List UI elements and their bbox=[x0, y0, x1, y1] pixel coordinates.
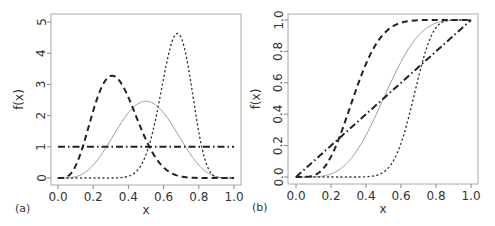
panel-a-pdf: 0.00.20.40.60.81.0012345xf(x)(a) bbox=[12, 14, 244, 217]
series-dotted-line bbox=[58, 34, 234, 179]
y-tick-label: 0.6 bbox=[272, 73, 286, 92]
y-tick-label: 5 bbox=[35, 18, 49, 26]
y-tick-label: 0.8 bbox=[272, 42, 286, 61]
y-axis-title: f(x) bbox=[12, 89, 26, 110]
y-tick-label: 1.0 bbox=[272, 10, 286, 29]
x-tick-label: 0.4 bbox=[356, 189, 375, 203]
y-tick-label: 4 bbox=[35, 49, 49, 57]
series-dashdot-line bbox=[296, 20, 471, 177]
x-tick-label: 0.6 bbox=[154, 190, 173, 204]
y-tick-label: 1 bbox=[35, 143, 49, 151]
x-tick-label: 0.4 bbox=[119, 190, 138, 204]
x-axis-title: x bbox=[379, 202, 386, 216]
x-tick-label: 1.0 bbox=[224, 190, 243, 204]
series-dashed-line bbox=[58, 76, 234, 178]
x-tick-label: 0.0 bbox=[48, 190, 67, 204]
plot-frame bbox=[51, 14, 241, 185]
y-axis-title: f(x) bbox=[249, 89, 263, 110]
beta-distribution-figure: 0.00.20.40.60.81.0012345xf(x)(a) 0.00.20… bbox=[0, 0, 495, 226]
x-tick-label: 0.0 bbox=[286, 189, 305, 203]
y-tick-label: 0.4 bbox=[272, 105, 286, 124]
x-tick-label: 1.0 bbox=[461, 189, 480, 203]
x-tick-label: 0.8 bbox=[189, 190, 208, 204]
x-tick-label: 0.6 bbox=[391, 189, 410, 203]
panel-label: (a) bbox=[15, 202, 30, 215]
x-axis-title: x bbox=[142, 203, 149, 217]
y-tick-label: 3 bbox=[35, 81, 49, 89]
panel-b-cdf: 0.00.20.40.60.81.00.00.20.40.60.81.0xf(x… bbox=[249, 10, 481, 216]
y-tick-label: 0 bbox=[35, 174, 49, 182]
panel-label: (b) bbox=[252, 201, 268, 214]
y-tick-label: 0.2 bbox=[272, 136, 286, 155]
x-tick-label: 0.2 bbox=[321, 189, 340, 203]
x-tick-label: 0.8 bbox=[426, 189, 445, 203]
y-tick-label: 2 bbox=[35, 112, 49, 120]
x-tick-label: 0.2 bbox=[84, 190, 103, 204]
y-tick-label: 0.0 bbox=[272, 167, 286, 186]
